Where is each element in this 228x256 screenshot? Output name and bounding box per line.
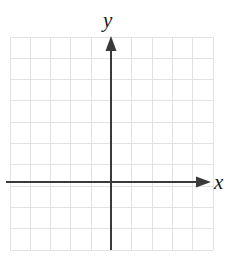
coordinate-plane-figure: y x [0,0,228,256]
y-axis-label: y [103,10,112,31]
x-axis-label: x [214,172,223,193]
y-axis-arrowhead-icon [106,36,117,51]
coordinate-plane-svg [0,0,228,256]
